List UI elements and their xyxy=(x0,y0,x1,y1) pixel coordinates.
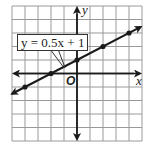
equation-label: y = 0.5x + 1 xyxy=(17,34,88,51)
x-axis-label: x xyxy=(136,73,142,89)
data-point xyxy=(100,44,105,49)
data-point xyxy=(22,84,27,89)
y-axis-label: y xyxy=(82,2,88,18)
data-point xyxy=(126,30,131,35)
axes xyxy=(14,8,140,139)
data-point xyxy=(74,57,79,62)
coordinate-graph xyxy=(0,0,156,150)
data-point xyxy=(48,71,53,76)
origin-label: O xyxy=(66,74,75,88)
